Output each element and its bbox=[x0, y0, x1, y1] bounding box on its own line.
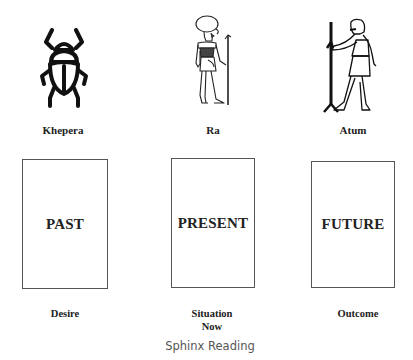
card-title-present: PRESENT bbox=[178, 215, 249, 232]
card-title-future: FUTURE bbox=[322, 216, 385, 233]
position-label-future: Outcome bbox=[308, 307, 408, 320]
position-label-past: Desire bbox=[15, 307, 115, 320]
position-label-present: Situation Now bbox=[162, 307, 262, 333]
god-label-ra: Ra bbox=[163, 124, 263, 136]
god-label-khepera: Khepera bbox=[13, 124, 113, 136]
card-future: FUTURE bbox=[311, 161, 395, 288]
position-label-outcome: Outcome bbox=[308, 307, 408, 320]
card-title-past: PAST bbox=[46, 216, 84, 233]
figure-caption: Sphinx Reading bbox=[0, 339, 413, 353]
ra-figure-icon bbox=[190, 15, 240, 111]
position-label-situation: Situation bbox=[162, 307, 262, 320]
position-label-desire: Desire bbox=[15, 307, 115, 320]
position-label-now: Now bbox=[162, 320, 262, 333]
card-past: PAST bbox=[22, 159, 108, 289]
card-present: PRESENT bbox=[171, 158, 255, 288]
atum-figure-icon bbox=[322, 18, 386, 114]
god-label-atum: Atum bbox=[303, 124, 403, 136]
scarab-icon bbox=[38, 28, 90, 110]
